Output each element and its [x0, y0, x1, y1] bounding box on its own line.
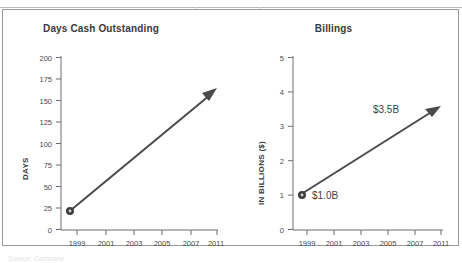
figure-border-box: Days Cash Outstanding DAYS: [2, 9, 459, 246]
y-tick-group-right: [288, 58, 293, 230]
x-tick-label: 2005: [154, 239, 171, 247]
value-label-end-billings: $3.5B: [373, 104, 399, 115]
y-tick-label: 5: [280, 54, 284, 63]
x-tick-label: 2007: [183, 239, 200, 247]
y-tick-label: 175: [39, 75, 52, 84]
value-label-start-billings: $1.0B: [312, 190, 338, 201]
x-tick-labels-right: 1999 2001 2003 2005 2007 2011: [299, 239, 449, 247]
y-tick-label: 50: [44, 183, 52, 192]
y-tick-group-left: [56, 58, 61, 230]
x-tick-group-left: [77, 230, 217, 235]
figure-page: Days Cash Outstanding DAYS: [0, 0, 462, 263]
trend-line-billings: [303, 111, 433, 193]
plot-area-days-cash-outstanding: 200 175 150 125 100 75 50 25 0: [3, 10, 235, 247]
y-tick-label: 125: [39, 118, 52, 127]
bottom-clipped-caption-artifact: Source: Company: [8, 256, 128, 261]
x-tick-label: 2003: [126, 239, 143, 247]
x-tick-label: 2011: [433, 239, 449, 247]
x-tick-label: 2005: [380, 239, 397, 247]
y-tick-label: 3: [280, 122, 284, 131]
plot-area-billings: 5 4 3 2 1 0 1999 2001: [235, 10, 460, 247]
y-tick-label: 100: [39, 140, 52, 149]
x-tick-label: 2001: [98, 239, 115, 247]
y-tick-label: 0: [48, 226, 52, 235]
trend-line-days-cash-outstanding: [71, 95, 210, 210]
start-data-point-marker-center-billings: [301, 194, 304, 197]
x-tick-label: 2001: [326, 239, 343, 247]
y-tick-label: 200: [39, 54, 52, 63]
y-tick-label: 25: [44, 204, 52, 213]
y-tick-label: 150: [39, 97, 52, 106]
x-tick-label: 1999: [69, 239, 86, 247]
x-tick-labels-left: 1999 2001 2003 2005 2007 2011: [69, 239, 224, 247]
y-tick-label: 0: [280, 226, 284, 235]
x-tick-label: 1999: [299, 239, 316, 247]
y-tick-label: 1: [280, 191, 284, 200]
x-tick-group-right: [307, 230, 441, 235]
start-data-point-marker-center-days: [69, 210, 72, 213]
top-clipped-rule-artifact: [0, 7, 462, 8]
x-tick-label: 2011: [208, 239, 224, 247]
y-tick-label: 4: [280, 88, 284, 97]
x-tick-label: 2007: [407, 239, 424, 247]
y-tick-label: 2: [280, 157, 284, 166]
y-tick-labels-right: 5 4 3 2 1 0: [280, 54, 284, 235]
y-tick-label: 75: [44, 161, 52, 170]
x-tick-label: 2003: [353, 239, 370, 247]
chart-panel-days-cash-outstanding: Days Cash Outstanding DAYS: [3, 10, 235, 247]
y-tick-labels-left: 200 175 150 125 100 75 50 25 0: [39, 54, 52, 235]
chart-panel-billings: Billings IN BILLIONS ($) 5 4 3: [235, 10, 460, 247]
